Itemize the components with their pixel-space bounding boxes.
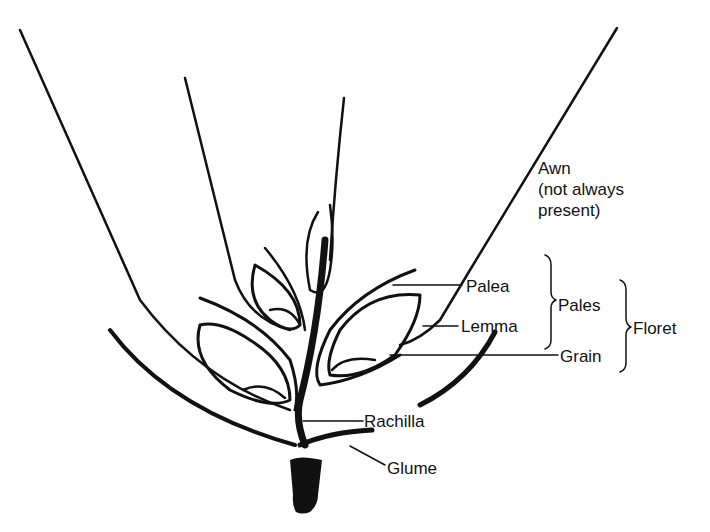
floret-label: Floret [633,318,676,339]
left-inner-awn [185,78,290,330]
rachilla-stem [298,240,325,445]
glume-base [290,458,322,514]
pales-bracket [545,255,556,349]
spikelet-diagram: Awn (not always present) Palea Lemma Pal… [0,0,710,532]
left-outer-awn [20,30,290,410]
rachilla-label: Rachilla [364,411,424,432]
glume-leader [350,446,385,465]
awn-label-line1: Awn [538,158,624,179]
palea-label: Palea [466,276,509,297]
spikelet-drawing [0,0,710,532]
awn-label: Awn (not always present) [538,158,624,221]
glume-branch [300,430,372,445]
grain-label: Grain [560,346,602,367]
awn-label-line3: present) [538,200,624,221]
pales-label: Pales [558,295,601,316]
right-floret-outer [317,270,415,385]
awn-label-line2: (not always [538,179,624,200]
glume-label: Glume [387,458,437,479]
right-glume-arc [420,332,495,405]
upper-left-floret [252,265,300,329]
lemma-label: Lemma [461,316,518,337]
floret-bracket [620,280,631,372]
